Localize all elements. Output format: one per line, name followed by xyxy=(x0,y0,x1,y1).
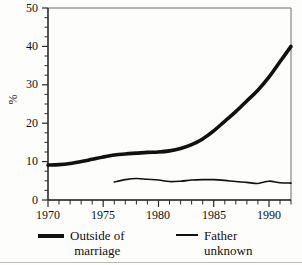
x-tick-label-1985: 1985 xyxy=(194,209,234,221)
legend-line-swatch-thin-icon xyxy=(176,234,198,236)
legend-entry-father-unknown: Father unknown xyxy=(176,228,252,258)
y-tick-label-0: 0 xyxy=(12,194,38,206)
legend-label-father-unknown: Father unknown xyxy=(204,228,252,258)
page-divider-rule xyxy=(0,262,302,263)
series-outside-of-marriage xyxy=(48,46,291,165)
legend-entry-outside-of-marriage: Outside of marriage xyxy=(38,228,125,258)
y-axis-label: % xyxy=(6,89,21,111)
y-tick-label-40: 40 xyxy=(12,40,38,52)
x-tick-label-1980: 1980 xyxy=(138,209,178,221)
y-tick-label-20: 20 xyxy=(12,117,38,129)
legend-label-line1: Outside of xyxy=(70,228,125,243)
line-chart-plot xyxy=(0,0,302,265)
legend-label-line2: unknown xyxy=(204,243,252,258)
legend-line-swatch-thick-icon xyxy=(38,234,64,238)
chart-legend: Outside of marriage Father unknown xyxy=(0,228,302,265)
x-tick-label-1990: 1990 xyxy=(249,209,289,221)
legend-label-line2: marriage xyxy=(70,243,125,258)
y-tick-label-50: 50 xyxy=(12,2,38,14)
y-tick-label-10: 10 xyxy=(12,155,38,167)
legend-label-outside-of-marriage: Outside of marriage xyxy=(70,228,125,258)
x-tick-label-1970: 1970 xyxy=(28,209,68,221)
legend-label-line1: Father xyxy=(204,228,252,243)
y-tick-label-30: 30 xyxy=(12,78,38,90)
chart-figure: % 50 40 30 20 10 0 1970 1975 1980 1985 1… xyxy=(0,0,302,265)
series-father-unknown xyxy=(114,178,291,183)
x-tick-label-1975: 1975 xyxy=(83,209,123,221)
plot-frame xyxy=(48,8,291,200)
